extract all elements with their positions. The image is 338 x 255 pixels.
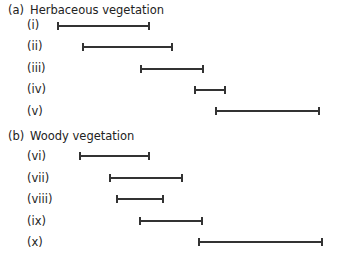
section-heading-herbaceous: (a)Herbaceous vegetation [8, 3, 164, 17]
section-tag: (b) [8, 129, 30, 143]
range-bar [194, 89, 226, 91]
range-bar [140, 68, 204, 70]
row-label: (vii) [27, 171, 49, 185]
range-bar [198, 241, 323, 243]
row-label: (viii) [27, 192, 52, 206]
row-label: (ii) [27, 39, 42, 53]
range-bar [139, 220, 203, 222]
row-label: (vi) [27, 149, 46, 163]
section-tag: (a) [8, 3, 30, 17]
range-bar [215, 110, 320, 112]
range-bar [79, 155, 150, 157]
range-bar [82, 46, 173, 48]
section-title: Woody vegetation [30, 129, 134, 143]
row-label: (iv) [27, 82, 46, 96]
row-label: (x) [27, 235, 43, 249]
row-label: (v) [27, 104, 43, 118]
range-bar [109, 177, 183, 179]
row-label: (iii) [27, 61, 46, 75]
range-bar [116, 198, 164, 200]
row-label: (ix) [27, 214, 46, 228]
range-bar [57, 25, 150, 27]
section-heading-woody: (b)Woody vegetation [8, 129, 134, 143]
section-title: Herbaceous vegetation [30, 3, 164, 17]
row-label: (i) [27, 18, 39, 32]
